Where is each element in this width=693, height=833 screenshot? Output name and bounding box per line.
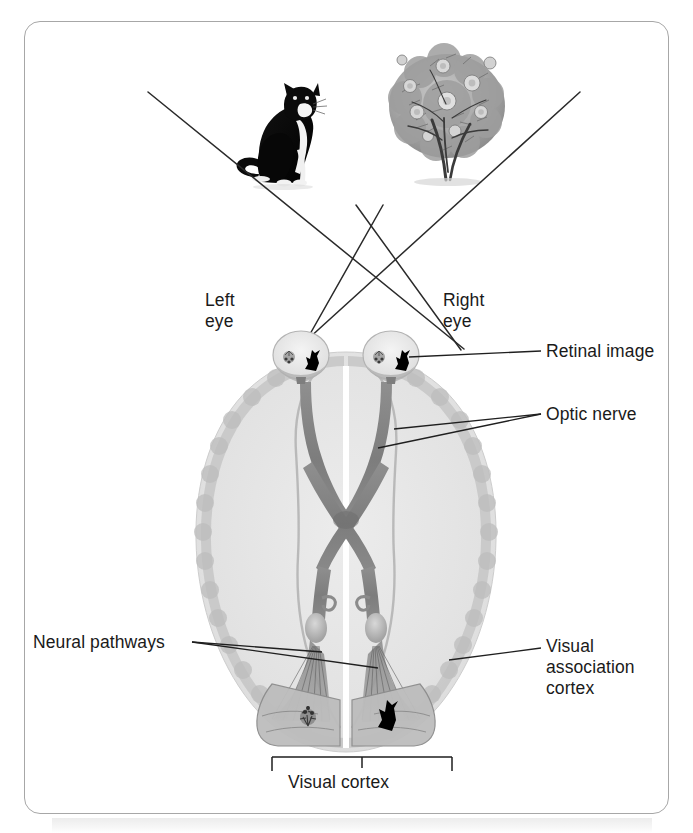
brain-diagram [194,331,498,752]
label-visual-cortex: Visual cortex [288,772,389,793]
bush-stimulus-icon [388,43,505,186]
figure-root: Left eye Right eye Retinal image Optic n… [0,0,693,833]
label-left-eye: Left eye [205,290,235,332]
label-retinal-image: Retinal image [546,341,654,362]
label-visual-association-cortex: Visual association cortex [546,636,635,699]
label-neural-pathways: Neural pathways [33,632,165,653]
label-optic-nerve: Optic nerve [546,404,637,425]
visual-cortex-bracket [272,757,452,771]
lgn-right [365,613,387,643]
label-right-eye: Right eye [443,290,484,332]
lgn-left [305,613,327,643]
cat-stimulus-icon [237,83,327,190]
longitudinal-fissure [343,366,349,748]
leader-retinal-image [409,351,541,357]
